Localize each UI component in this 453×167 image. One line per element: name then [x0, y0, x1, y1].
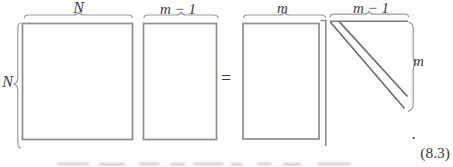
- label-m-minus-1-left: m − 1: [160, 1, 196, 17]
- label-n-top: N: [72, 0, 85, 16]
- triangle-diagonal-upper: [339, 21, 408, 96]
- matrix-a-box: [23, 24, 133, 140]
- figure-canvas: N N m − 1 = m m − 1 m . (8.3): [0, 0, 453, 166]
- label-m-right: m: [413, 53, 424, 69]
- last-column-line: [321, 21, 326, 147]
- triangle-diagonal-lower: [330, 22, 404, 109]
- label-m-top: m: [277, 0, 288, 16]
- matrix-equation-figure: N N m − 1 = m m − 1 m . (8.3): [0, 0, 453, 166]
- equals-sign: =: [221, 68, 231, 88]
- sentence-period: .: [412, 125, 416, 142]
- cutoff-caption-artifacts: [57, 163, 351, 167]
- equation-number: (8.3): [420, 144, 450, 162]
- label-n-left: N: [1, 73, 14, 90]
- matrix-v-prev-box: [144, 24, 217, 140]
- hessenberg-triangle: [330, 21, 408, 108]
- matrix-v-box: [243, 24, 319, 140]
- label-m-minus-1-right: m − 1: [353, 0, 389, 16]
- left-brace-n: [14, 23, 21, 148]
